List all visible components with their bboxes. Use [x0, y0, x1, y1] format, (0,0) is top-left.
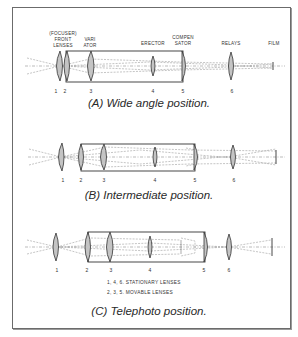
lens-number: 4: [152, 88, 155, 94]
lens-number: 3: [110, 267, 113, 273]
label-sator: SATOR: [175, 41, 192, 46]
lens-5: [194, 144, 198, 170]
lens-number: 2: [86, 267, 89, 273]
legend-movable: 2, 3, 5. MOVABLE LENSES: [107, 290, 173, 295]
label-lenses: LENSES: [53, 43, 72, 48]
label-relays: RELAYS: [222, 41, 241, 46]
lens-6: [227, 234, 232, 260]
lens-4: [153, 147, 157, 167]
caption-panel-a: (A) Wide angle position.: [0, 97, 298, 109]
label-film: FILM: [268, 41, 279, 46]
lens-number: 6: [233, 177, 236, 183]
label-focuser: (FOCUSER): [49, 31, 77, 36]
lens-5: [182, 51, 186, 81]
lens-number: 5: [194, 177, 197, 183]
lens-number: 6: [231, 88, 234, 94]
lens-3: [88, 51, 95, 81]
legend-stationary: 1, 4, 6. STATIONARY LENSES: [107, 280, 181, 285]
lens-1: [53, 233, 59, 261]
lens-4: [148, 236, 152, 258]
label-front: FRONT: [55, 37, 72, 42]
lens-1: [59, 143, 65, 171]
label-vari: VARI: [84, 37, 95, 42]
lens-number: 3: [90, 88, 93, 94]
lens-3: [101, 144, 107, 170]
lens-6: [229, 52, 234, 80]
panel-b-intermediate: 1 2 3 4 5 6: [28, 143, 285, 183]
label-compen: COMPEN: [172, 35, 193, 40]
lens-4: [151, 56, 155, 76]
lens-number: 1: [56, 267, 59, 273]
lens-number: 4: [149, 267, 152, 273]
caption-panel-b: (B) Intermediate position.: [0, 189, 298, 201]
label-ator: ATOR: [83, 43, 97, 48]
caption-panel-c: (C) Telephoto position.: [0, 305, 298, 317]
lens-number: 4: [154, 177, 157, 183]
lens-6: [231, 145, 236, 169]
panel-a-wide-angle: 1 2 3 4 5 6: [25, 51, 285, 94]
lens-2: [85, 232, 91, 262]
lens-number: 2: [64, 88, 67, 94]
lens-2: [64, 51, 70, 81]
lens-number: 6: [228, 267, 231, 273]
lens-5: [204, 232, 208, 262]
lens-number: 3: [103, 177, 106, 183]
lens-1: [57, 51, 63, 81]
panel-c-telephoto: 1 2 3 4 5 6: [25, 232, 285, 273]
lens-number: 1: [62, 177, 65, 183]
lens-number: 1: [55, 88, 58, 94]
lens-number: 5: [203, 267, 206, 273]
lens-2: [79, 144, 84, 170]
component-labels: (FOCUSER) FRONT LENSES VARI ATOR ERECTOR…: [49, 31, 279, 48]
lens-number: 2: [80, 177, 83, 183]
lens-number: 5: [182, 88, 185, 94]
lens-3: [107, 232, 114, 262]
zoom-lens-diagram: .lens { fill:#c4c4c4; stroke:#333; strok…: [0, 0, 298, 337]
label-erector: ERECTOR: [141, 41, 165, 46]
